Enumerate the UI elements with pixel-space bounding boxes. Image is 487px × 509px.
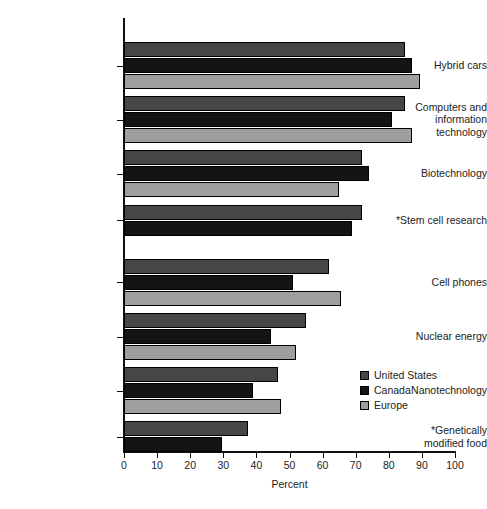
bar-group-biotechnology xyxy=(124,150,455,198)
bar-row xyxy=(124,74,455,89)
y-axis-tick xyxy=(117,66,124,67)
x-axis-tick xyxy=(157,453,158,458)
bar-cell-phones-europe xyxy=(124,291,341,306)
bar-biotechnology-united-states xyxy=(124,150,362,165)
bar-biotechnology-europe xyxy=(124,182,339,197)
x-axis-tick xyxy=(356,453,357,458)
bar-row xyxy=(124,275,455,290)
bar-nanotechnology-canada xyxy=(124,383,253,398)
bar-row xyxy=(124,291,455,306)
bar-group-stem-cell-research xyxy=(124,205,455,237)
bar-row xyxy=(124,437,455,452)
x-axis-tick-label: 10 xyxy=(142,459,172,471)
x-axis-tick xyxy=(290,453,291,458)
x-axis-tick xyxy=(389,453,390,458)
y-axis-tick xyxy=(117,337,124,338)
bar-row xyxy=(124,329,455,344)
x-axis-tick-label: 90 xyxy=(407,459,437,471)
x-axis-tick-label: 100 xyxy=(440,459,470,471)
bar-group-hybrid-cars xyxy=(124,42,455,90)
x-axis-tick-label: 60 xyxy=(308,459,338,471)
bar-row xyxy=(124,112,455,127)
bar-group-genetically-modified-food xyxy=(124,421,455,453)
legend-label: United States xyxy=(374,369,437,381)
y-axis-tick xyxy=(117,282,124,283)
x-axis-tick-label: 0 xyxy=(109,459,139,471)
bar-row xyxy=(124,42,455,57)
bar-row xyxy=(124,128,455,143)
chart-legend: United StatesCanadaEurope xyxy=(360,368,437,413)
bar-row xyxy=(124,182,455,197)
bar-nanotechnology-united-states xyxy=(124,367,278,382)
y-axis-tick xyxy=(117,391,124,392)
bar-nanotechnology-europe xyxy=(124,399,281,414)
y-axis-tick xyxy=(117,174,124,175)
bar-group-nuclear-energy xyxy=(124,313,455,361)
bar-cell-phones-united-states xyxy=(124,259,329,274)
bar-hybrid-cars-united-states xyxy=(124,42,405,57)
legend-item-canada: Canada xyxy=(360,383,437,397)
bar-stem-cell-research-canada xyxy=(124,221,352,236)
bar-row xyxy=(124,221,455,236)
bar-row xyxy=(124,166,455,181)
y-axis-tick xyxy=(117,437,124,438)
x-axis-tick xyxy=(455,453,456,458)
bar-genetically-modified-food-united-states xyxy=(124,421,248,436)
x-axis-title: Percent xyxy=(124,478,455,490)
bar-row xyxy=(124,58,455,73)
x-axis-tick-label: 70 xyxy=(341,459,371,471)
bar-nuclear-energy-europe xyxy=(124,345,296,360)
bar-row xyxy=(124,205,455,220)
bar-row xyxy=(124,345,455,360)
x-axis-tick xyxy=(190,453,191,458)
bar-row xyxy=(124,259,455,274)
x-axis-tick xyxy=(223,453,224,458)
bar-nuclear-energy-united-states xyxy=(124,313,306,328)
y-axis-tick xyxy=(117,220,124,221)
bar-group-cell-phones xyxy=(124,259,455,307)
bar-row xyxy=(124,150,455,165)
legend-label: Canada xyxy=(374,384,411,396)
x-axis-tick-label: 40 xyxy=(241,459,271,471)
bar-row xyxy=(124,421,455,436)
x-axis-tick xyxy=(422,453,423,458)
bar-computers-and-information-technology-canada xyxy=(124,112,392,127)
bar-computers-and-information-technology-europe xyxy=(124,128,412,143)
bar-chart: Hybrid carsComputers and information tec… xyxy=(0,0,487,509)
bar-hybrid-cars-europe xyxy=(124,74,420,89)
bar-computers-and-information-technology-united-states xyxy=(124,96,405,111)
bar-genetically-modified-food-canada xyxy=(124,437,222,452)
bar-cell-phones-canada xyxy=(124,275,293,290)
x-axis-tick-label: 20 xyxy=(175,459,205,471)
legend-swatch-icon xyxy=(360,371,369,380)
bar-row xyxy=(124,313,455,328)
x-axis-tick-label: 30 xyxy=(208,459,238,471)
bar-group-computers-and-information-technology xyxy=(124,96,455,144)
legend-item-europe: Europe xyxy=(360,398,437,412)
legend-swatch-icon xyxy=(360,401,369,410)
bar-row xyxy=(124,96,455,111)
bar-hybrid-cars-canada xyxy=(124,58,412,73)
legend-label: Europe xyxy=(374,399,408,411)
x-axis-tick xyxy=(323,453,324,458)
bar-nuclear-energy-canada xyxy=(124,329,271,344)
x-axis-tick-label: 50 xyxy=(275,459,305,471)
bar-stem-cell-research-united-states xyxy=(124,205,362,220)
legend-item-united-states: United States xyxy=(360,368,437,382)
x-axis-tick xyxy=(256,453,257,458)
x-axis-tick-label: 80 xyxy=(374,459,404,471)
y-axis-tick xyxy=(117,120,124,121)
x-axis-tick xyxy=(124,453,125,458)
bar-biotechnology-canada xyxy=(124,166,369,181)
legend-swatch-icon xyxy=(360,386,369,395)
